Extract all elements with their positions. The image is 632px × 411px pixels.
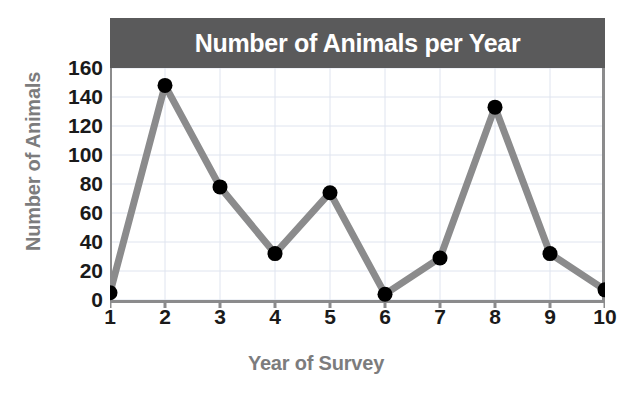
x-axis-tick-label: 10 <box>593 306 616 327</box>
x-axis-tick-label: 1 <box>104 306 116 327</box>
x-axis-tick-label: 2 <box>159 306 171 327</box>
plot-area <box>110 68 605 300</box>
data-point-marker <box>433 250 448 265</box>
data-point-marker <box>158 78 173 93</box>
data-point-markers-group <box>110 78 605 302</box>
line-chart-svg <box>110 68 605 308</box>
gridlines-group <box>110 68 605 300</box>
data-point-marker <box>323 185 338 200</box>
y-axis-tick-labels: 020406080100120140160 <box>38 0 103 411</box>
y-axis-tick-label: 140 <box>68 86 103 107</box>
y-axis-tick-label: 120 <box>68 115 103 136</box>
tick-marks-group <box>110 68 605 308</box>
x-axis-tick-label: 6 <box>379 306 391 327</box>
y-axis-title: Number of Animals <box>22 47 45 277</box>
data-point-marker <box>213 179 228 194</box>
x-axis-tick-labels: 12345678910 <box>0 306 632 336</box>
x-axis-tick-label: 9 <box>544 306 556 327</box>
data-point-marker <box>488 100 503 115</box>
page-title: Number of Animals per Year <box>195 29 521 58</box>
y-axis-tick-label: 160 <box>68 57 103 78</box>
data-series-line <box>110 85 605 294</box>
chart-title-banner: Number of Animals per Year <box>110 18 605 68</box>
y-axis-tick-label: 80 <box>80 173 103 194</box>
x-axis-tick-label: 8 <box>489 306 501 327</box>
x-axis-tick-label: 3 <box>214 306 226 327</box>
x-axis-title: Year of Survey <box>0 352 632 375</box>
data-point-marker <box>110 285 118 300</box>
y-axis-tick-label: 40 <box>80 231 103 252</box>
y-axis-tick-label: 60 <box>80 202 103 223</box>
y-axis-tick-label: 100 <box>68 144 103 165</box>
chart-figure: Number of Animals per Year 0204060801001… <box>0 0 632 411</box>
axes-group <box>110 68 605 302</box>
x-axis-tick-label: 7 <box>434 306 446 327</box>
x-axis-tick-label: 4 <box>269 306 281 327</box>
y-axis-tick-label: 20 <box>80 260 103 281</box>
x-axis-tick-label: 5 <box>324 306 336 327</box>
data-point-marker <box>543 246 558 261</box>
data-point-marker <box>378 287 393 302</box>
data-point-marker <box>268 246 283 261</box>
